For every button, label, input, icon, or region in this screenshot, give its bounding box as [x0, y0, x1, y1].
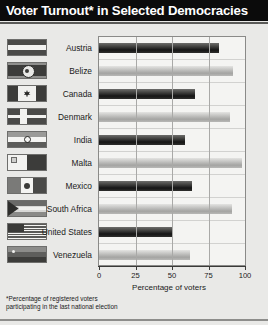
x-axis-tick-label: 50: [168, 271, 176, 280]
country-label: Canada: [2, 82, 92, 105]
page-title: Voter Turnout* in Selected Democracies: [6, 3, 248, 18]
country-label: Venezuela: [2, 243, 92, 266]
country-label: Belize: [2, 59, 92, 82]
bar-belize: [99, 66, 233, 76]
x-axis-label: Percentage of voters: [0, 283, 268, 292]
bar-canada: [99, 89, 195, 99]
country-label: South Africa: [2, 197, 92, 220]
x-axis-label-text: Percentage of voters: [132, 283, 206, 292]
chart-page: Voter Turnout* in Selected Democracies A…: [0, 0, 268, 325]
country-label: Mexico: [2, 174, 92, 197]
bar-denmark: [99, 112, 230, 122]
gridline: [172, 37, 173, 265]
plot-area: [98, 36, 246, 266]
x-axis-tick-label: 0: [97, 271, 101, 280]
country-label: United States: [2, 220, 92, 243]
footnote-line-1: *Percentage of registered voters: [6, 295, 156, 303]
x-axis-tick: [209, 266, 210, 270]
bottom-divider: [0, 319, 268, 321]
x-axis-tick-label: 25: [131, 271, 139, 280]
bar-south-africa: [99, 204, 232, 214]
x-axis-tick: [99, 266, 100, 270]
gridline: [136, 37, 137, 265]
x-axis-tick: [136, 266, 137, 270]
country-label: Austria: [2, 36, 92, 59]
bar-venezuela: [99, 250, 190, 260]
gridline: [209, 37, 210, 265]
footnote: *Percentage of registered voters partici…: [6, 295, 156, 312]
title-bar: Voter Turnout* in Selected Democracies: [0, 0, 268, 21]
x-axis-tick-label: 75: [204, 271, 212, 280]
bar-austria: [99, 43, 219, 53]
country-label: Malta: [2, 151, 92, 174]
country-label: India: [2, 128, 92, 151]
footnote-line-2: participating in the last national elect…: [6, 303, 156, 311]
country-label-column: AustriaBelizeCanadaDenmarkIndiaMaltaMexi…: [50, 36, 94, 266]
x-axis-tick: [172, 266, 173, 270]
title-divider: [0, 22, 268, 24]
x-axis-tick: [245, 266, 246, 270]
country-label: Denmark: [2, 105, 92, 128]
x-axis-tick-label: 100: [239, 271, 252, 280]
bar-malta: [99, 158, 242, 168]
bar-mexico: [99, 181, 192, 191]
